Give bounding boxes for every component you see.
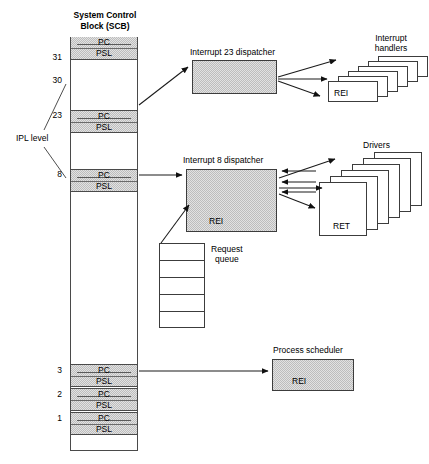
arrow-dispatcher8-to-driver-top xyxy=(279,159,335,178)
ipl-leader-line-upper xyxy=(44,84,66,130)
arrow-dispatcher8-to-driver-bottom xyxy=(279,194,315,208)
arrow-dispatcher23-to-handler-bottom xyxy=(278,81,320,96)
ipl-leader-line-lower xyxy=(44,147,66,178)
connector-layer xyxy=(0,0,429,464)
arrow-request-queue-to-dispatcher8 xyxy=(161,205,189,243)
arrow-scb23-to-dispatcher23 xyxy=(139,67,188,105)
arrow-dispatcher23-to-handler-top xyxy=(278,60,336,77)
